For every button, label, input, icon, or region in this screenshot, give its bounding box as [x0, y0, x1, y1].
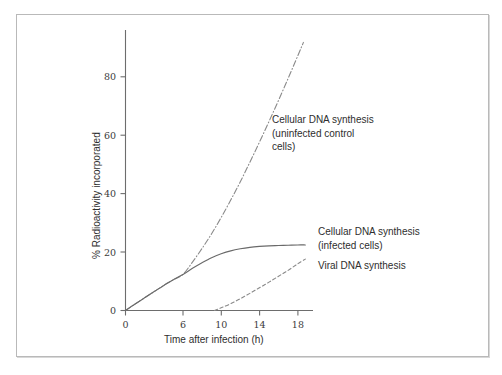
y-tick-label-0: 0: [96, 306, 116, 316]
plot-canvas: [0, 0, 502, 375]
x-tick-label-10: 10: [209, 320, 233, 330]
figure-root: 80 60 40 20 0 0 6 10 14 18 % Radioactivi…: [0, 0, 502, 375]
series-line-viral-dna: [214, 259, 305, 310]
x-tick-label-0: 0: [114, 320, 138, 330]
annotation-viral-dna: Viral DNA synthesis: [318, 259, 406, 273]
annotation-uninfected-control: Cellular DNA synthesis (uninfected contr…: [272, 113, 374, 154]
series-line-uninfected-control: [126, 42, 304, 310]
x-tick-label-18: 18: [286, 320, 310, 330]
x-tick-label-6: 6: [171, 320, 195, 330]
y-axis-title: % Radioactivity incorporated: [92, 132, 102, 259]
x-tick-label-14: 14: [248, 320, 272, 330]
y-tick-label-80: 80: [96, 72, 116, 82]
annotation-infected-cells: Cellular DNA synthesis (infected cells): [318, 225, 420, 252]
x-axis-title: Time after infection (h): [164, 335, 264, 345]
series-line-infected-cells: [126, 245, 306, 311]
